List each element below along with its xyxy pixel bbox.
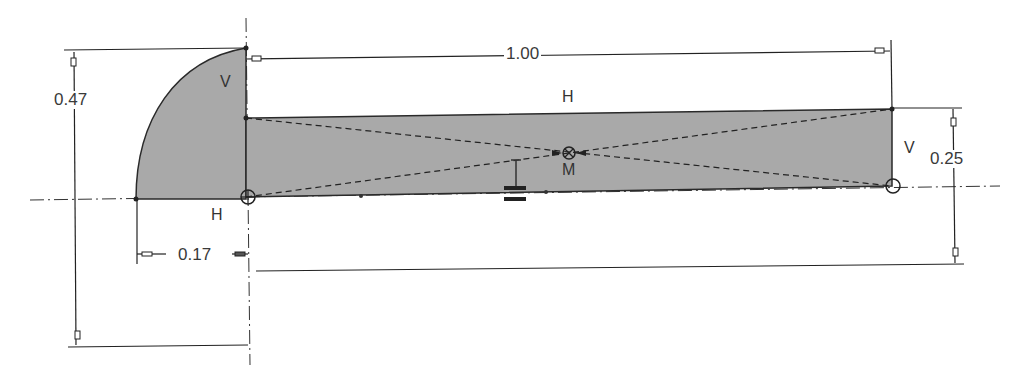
vertex-point[interactable] bbox=[359, 194, 363, 198]
constraint-horizontal-top[interactable]: H bbox=[562, 89, 574, 105]
vertex-point[interactable] bbox=[134, 197, 139, 202]
arrow-icon bbox=[71, 58, 76, 66]
arc-profile[interactable] bbox=[136, 48, 246, 199]
arrow-icon bbox=[142, 252, 152, 256]
dimension-offset[interactable]: 0.17 bbox=[176, 246, 213, 264]
constraint-horizontal-bottom[interactable]: H bbox=[211, 207, 223, 223]
vertex-point[interactable] bbox=[244, 46, 249, 51]
dim-line-1-00[interactable] bbox=[246, 51, 890, 59]
ext-line-bar-bottom bbox=[256, 264, 964, 271]
vertex-point[interactable] bbox=[244, 116, 249, 121]
ext-line-right bbox=[891, 40, 892, 109]
constraint-vertical-arc[interactable]: V bbox=[220, 74, 231, 90]
vertex-point[interactable] bbox=[544, 190, 548, 194]
ext-line-top bbox=[64, 48, 246, 50]
arrow-icon bbox=[235, 252, 245, 256]
dimension-total-height[interactable]: 0.47 bbox=[52, 91, 89, 109]
arrow-icon bbox=[75, 331, 80, 339]
ext-line-bottom bbox=[68, 345, 248, 347]
arrow-icon bbox=[951, 118, 956, 126]
dimension-length[interactable]: 1.00 bbox=[504, 45, 541, 63]
vertex-point[interactable] bbox=[890, 107, 895, 112]
arrow-icon bbox=[252, 56, 261, 61]
arrow-icon bbox=[875, 48, 884, 53]
dim-line-0-25[interactable] bbox=[953, 109, 955, 263]
origin-icon[interactable] bbox=[241, 190, 255, 204]
arrow-icon bbox=[953, 248, 958, 256]
constraint-midpoint[interactable]: M bbox=[562, 162, 575, 178]
constraint-vertical-right[interactable]: V bbox=[904, 140, 915, 156]
dimension-bar-height[interactable]: 0.25 bbox=[928, 150, 965, 168]
